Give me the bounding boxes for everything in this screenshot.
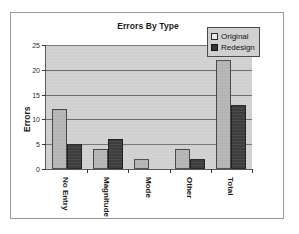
bar-original-mode[interactable] (134, 159, 149, 169)
x-axis-label-magnitude: Magnitude (102, 177, 111, 217)
y-tick-label-0: 0 (36, 166, 40, 173)
x-tick-sep-4 (211, 169, 212, 173)
y-tick-10 (42, 119, 46, 120)
bar-original-magnitude[interactable] (93, 149, 108, 169)
x-tick-sep-2 (128, 169, 129, 173)
x-axis-label-no-entry: No Entry (61, 177, 70, 210)
legend-label-original: Original (221, 32, 249, 41)
plot-area: 0510152025 (45, 45, 252, 170)
y-tick-label-10: 10 (32, 116, 40, 123)
bar-original-other[interactable] (175, 149, 190, 169)
y-tick-5 (42, 144, 46, 145)
bar-redesign-total[interactable] (231, 105, 246, 169)
x-axis-label-mode: Mode (144, 177, 153, 198)
legend-item-original[interactable]: Original (211, 31, 255, 42)
chart-legend: Original Redesign (207, 27, 260, 57)
bar-redesign-other[interactable] (190, 159, 205, 169)
bar-original-no-entry[interactable] (52, 109, 67, 169)
y-tick-label-20: 20 (32, 66, 40, 73)
y-tick-25 (42, 45, 46, 46)
chart-frame: Errors By Type Errors 0510152025 Origina… (10, 12, 284, 219)
bar-redesign-no-entry[interactable] (67, 144, 82, 169)
y-tick-15 (42, 95, 46, 96)
legend-item-redesign[interactable]: Redesign (211, 42, 255, 53)
legend-label-redesign: Redesign (221, 43, 255, 52)
legend-swatch-original-icon (211, 33, 218, 40)
x-tick-sep-1 (87, 169, 88, 173)
y-tick-label-5: 5 (36, 141, 40, 148)
legend-swatch-redesign-icon (211, 44, 218, 51)
bar-original-total[interactable] (216, 60, 231, 169)
y-tick-label-25: 25 (32, 42, 40, 49)
y-tick-0 (42, 169, 46, 170)
y-axis-title: Errors (21, 91, 33, 147)
y-tick-label-15: 15 (32, 91, 40, 98)
x-axis-label-other: Other (185, 177, 194, 198)
x-axis-label-total: Total (226, 177, 235, 196)
y-tick-20 (42, 70, 46, 71)
bar-redesign-magnitude[interactable] (108, 139, 123, 169)
x-tick-sep-3 (170, 169, 171, 173)
x-axis-end-tick (252, 169, 253, 173)
